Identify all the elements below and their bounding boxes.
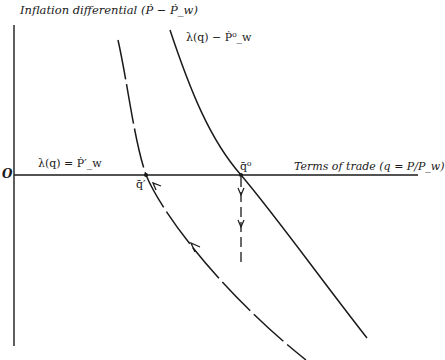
lower-curve-label: λ(q) = Ṗ′_w (38, 157, 102, 170)
q-zero-label: q̄⁰ (240, 160, 251, 173)
q-zero-point (239, 173, 243, 177)
up-arrow-icon (153, 183, 161, 190)
q-prime-point (144, 173, 148, 177)
lower-curve (118, 40, 306, 360)
q-prime-label: q̄′ (136, 178, 146, 191)
y-axis-label: Inflation differential (Ṗ − Ṗ_w) (20, 3, 198, 17)
x-axis-label: Terms of trade (q = P/P_w) (294, 160, 445, 173)
upper-curve (170, 30, 367, 338)
down-arrow-icon (238, 188, 244, 195)
upper-curve-label: λ(q) − Ṗ⁰_w (186, 31, 252, 44)
origin-label: O (2, 167, 12, 181)
